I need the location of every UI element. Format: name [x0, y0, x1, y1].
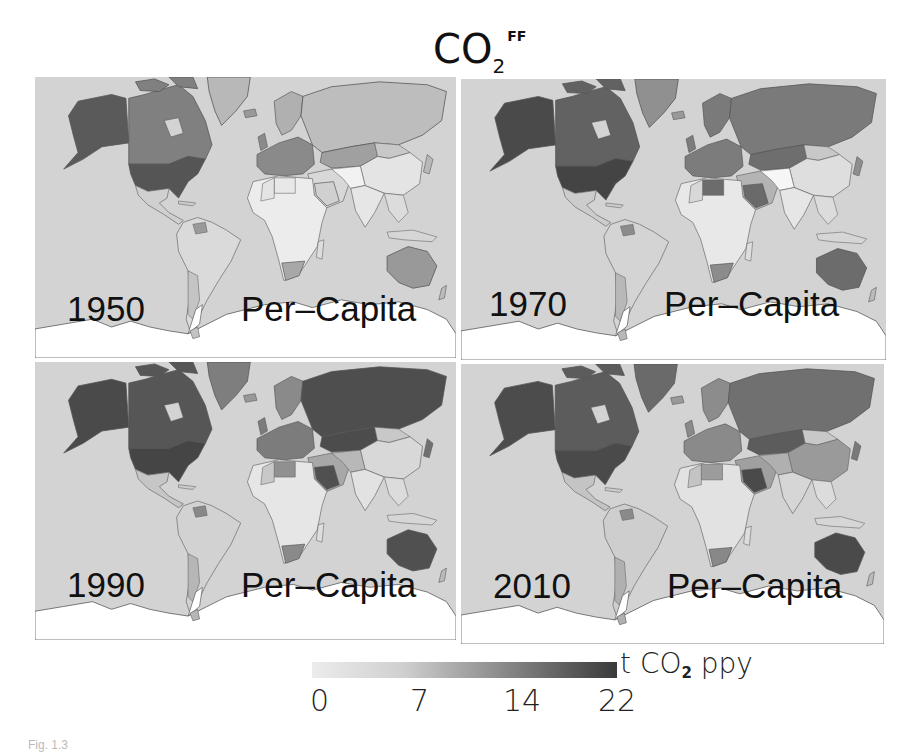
unit-prefix: t CO	[620, 647, 681, 680]
per-capita-label: Per–Capita	[241, 565, 416, 605]
year-label: 1990	[67, 565, 145, 605]
figure-title: CO2FF	[433, 26, 526, 78]
title-superscript: FF	[507, 28, 526, 44]
per-capita-label: Per–Capita	[241, 289, 416, 329]
map-panel-1990: 1990 Per–Capita	[35, 362, 456, 640]
map-panel-1970: 1970 Per–Capita	[461, 79, 886, 360]
colorbar-tick-0: 0	[310, 683, 329, 718]
per-capita-label: Per–Capita	[664, 284, 839, 324]
colorbar-tick-22: 22	[598, 683, 636, 718]
colorbar-unit-label: t CO2 ppy	[620, 647, 753, 682]
per-capita-label: Per–Capita	[667, 566, 842, 606]
map-panel-1950: 1950 Per–Capita	[35, 77, 456, 358]
colorbar-tick-7: 7	[410, 683, 429, 718]
title-main: CO	[433, 26, 492, 72]
title-subscript: 2	[492, 54, 505, 78]
colorbar-tick-14: 14	[503, 683, 541, 718]
colorbar	[312, 662, 617, 678]
year-label: 2010	[493, 566, 571, 606]
figure-caption: Fig. 1.3	[28, 738, 68, 752]
unit-subscript: 2	[681, 664, 691, 682]
unit-suffix: ppy	[692, 647, 753, 680]
year-label: 1970	[489, 284, 567, 324]
year-label: 1950	[67, 289, 145, 329]
map-panel-2010: 2010 Per–Capita	[461, 364, 884, 644]
